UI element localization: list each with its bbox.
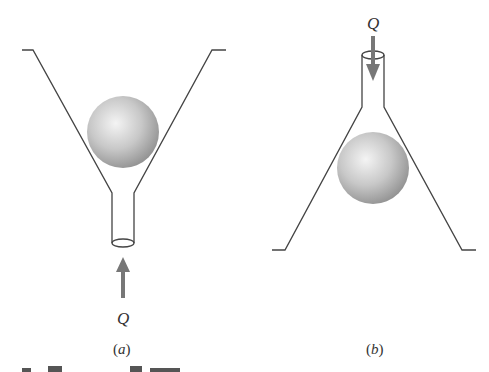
diagram-canvas	[0, 0, 489, 372]
flow-label-a: Q	[117, 309, 129, 329]
sphere-b	[337, 132, 409, 204]
flow-arrow-up-icon	[116, 257, 130, 298]
panel-label-a: (a)	[113, 341, 131, 358]
paren-close: )	[379, 341, 384, 357]
panel-letter-a: a	[118, 341, 126, 357]
sphere-a	[87, 96, 159, 168]
panel-label-b: (b)	[366, 341, 384, 358]
paren-close: )	[126, 341, 131, 357]
caption-fragment	[22, 366, 180, 372]
panel-letter-b: b	[371, 341, 379, 357]
flow-label-b: Q	[367, 14, 379, 34]
